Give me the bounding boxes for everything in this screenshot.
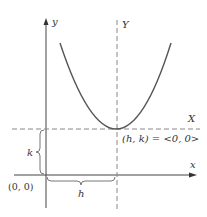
k-brace [36, 130, 44, 174]
Y-axis-label: Y [122, 19, 130, 30]
y-axis-arrow-icon [44, 18, 49, 25]
parabola-curve [60, 43, 171, 129]
parabola-translation-diagram: y x Y X (h, k) = <0, 0> (0, 0) k h [0, 0, 207, 217]
y-axis-label: y [51, 16, 58, 27]
x-axis-label: x [190, 159, 196, 170]
origin-label: (0, 0) [8, 181, 34, 192]
vertex-label: (h, k) = <0, 0> [122, 133, 199, 144]
X-axis-label: X [187, 113, 196, 124]
h-brace [47, 177, 115, 185]
x-axis-arrow-icon [189, 173, 197, 178]
h-label: h [78, 188, 84, 199]
k-label: k [27, 147, 33, 158]
